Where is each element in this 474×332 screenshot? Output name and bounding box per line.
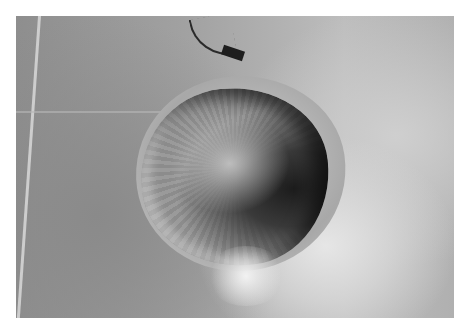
ejecta-field <box>206 246 286 306</box>
aerial-crater-photo <box>16 16 454 318</box>
parking-lot <box>221 45 245 61</box>
straight-road <box>17 16 41 318</box>
dirt-track <box>16 111 176 113</box>
